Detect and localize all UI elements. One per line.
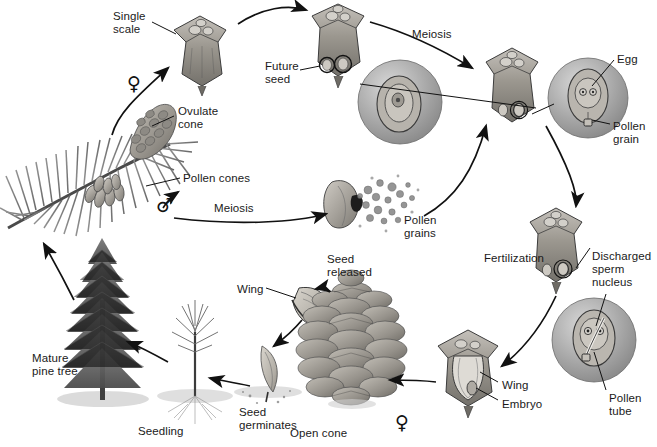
art-open-cone — [296, 270, 407, 409]
label-fertilization: Fertilization — [484, 252, 544, 265]
label-mature-pine-tree: Mature pine tree — [32, 352, 78, 378]
label-embryo: Embryo — [502, 398, 542, 411]
label-single-scale: Single scale — [113, 10, 146, 36]
symbol-female-cone: ♀ — [395, 413, 409, 432]
illustration-layer — [0, 0, 657, 447]
label-ovulate-cone: Ovulate cone — [178, 105, 218, 131]
art-ovule-pollen-tube — [552, 298, 636, 382]
art-seed-in-scale — [438, 330, 498, 418]
label-discharged-sperm: Discharged sperm nucleus — [592, 250, 651, 289]
label-seed-released: Seed released — [327, 253, 372, 279]
art-mature-pine-tree — [57, 238, 149, 407]
symbol-male-pollen: ♂ — [156, 196, 173, 215]
art-ovule-megaspore — [358, 60, 442, 144]
art-ovulate-cone — [130, 104, 177, 159]
art-seedling — [157, 300, 233, 424]
art-seed-germinating — [234, 346, 302, 404]
label-egg: Egg — [617, 53, 638, 66]
flow-arrows — [44, 7, 576, 386]
art-pollen-cones — [83, 174, 125, 208]
label-open-cone: Open cone — [290, 427, 347, 440]
symbol-female-ovulate: ♀ — [127, 74, 141, 93]
art-scale-fertilization — [530, 208, 582, 294]
label-pollen-cones: Pollen cones — [183, 172, 250, 185]
label-wing-embryo-wing: Wing — [502, 379, 529, 392]
art-scale-pollination — [486, 48, 538, 122]
art-scale-future-seed — [312, 4, 364, 88]
label-meiosis-bottom: Meiosis — [214, 202, 254, 215]
pine-life-cycle-figure: Single scaleFuture seedMeiosisEggPollen … — [0, 0, 657, 447]
label-meiosis-top: Meiosis — [412, 28, 452, 41]
label-pollen-grain: Pollen grain — [613, 120, 646, 146]
label-seedling: Seedling — [138, 425, 184, 438]
label-wing-seed: Wing — [237, 283, 264, 296]
label-seed-germinates: Seed germinates — [239, 406, 297, 432]
art-pine-branch — [0, 104, 198, 236]
label-future-seed: Future seed — [265, 60, 299, 86]
label-pollen-tube: Pollen tube — [609, 392, 642, 418]
art-winged-seed — [292, 287, 329, 328]
label-pollen-grains: Pollen grains — [404, 214, 437, 240]
art-single-scale — [174, 16, 226, 96]
